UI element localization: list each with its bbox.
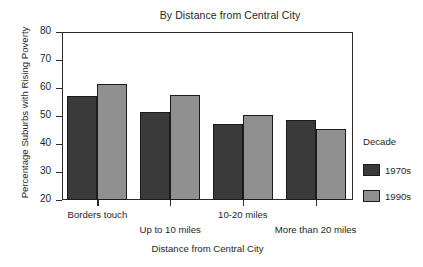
x-axis-tick-mark [316, 200, 317, 206]
bar [170, 95, 200, 200]
x-axis-category-label: Borders touch [37, 209, 157, 220]
legend-label: 1990s [385, 191, 411, 202]
x-axis-tick-mark [97, 200, 98, 206]
x-axis-tick-mark [243, 200, 244, 206]
y-axis-tick-label: 40 [21, 137, 51, 148]
y-axis-tick-mark [56, 172, 62, 173]
y-axis-tick-label: 20 [21, 193, 51, 204]
y-axis-tick-mark [56, 88, 62, 89]
legend-swatch [363, 190, 380, 202]
legend-title: Decade [363, 136, 423, 147]
y-axis-tick: 30 [0, 172, 62, 173]
x-axis-category-label: More than 20 miles [256, 224, 376, 235]
bar [140, 112, 170, 200]
bar [213, 124, 243, 200]
y-axis-tick: 60 [0, 88, 62, 89]
legend-label: 1970s [385, 165, 411, 176]
x-axis-tick-mark [170, 200, 171, 206]
legend-swatch [363, 164, 380, 176]
bar [243, 115, 273, 200]
x-axis-category-label: 10-20 miles [183, 209, 303, 220]
y-axis-tick-mark [56, 60, 62, 61]
y-axis-tick-mark [56, 32, 62, 33]
x-axis-title: Distance from Central City [62, 243, 353, 254]
y-axis-tick-label: 80 [21, 25, 51, 36]
y-axis-tick-mark [56, 200, 62, 201]
legend: Decade 1970s1990s [363, 136, 423, 216]
bar [97, 84, 127, 200]
y-axis-tick: 20 [0, 200, 62, 201]
y-axis-tick: 40 [0, 144, 62, 145]
bar-chart: By Distance from Central City Percentage… [0, 0, 423, 267]
legend-entry: 1990s [363, 190, 423, 202]
legend-entry: 1970s [363, 164, 423, 176]
y-axis-tick-label: 60 [21, 81, 51, 92]
x-axis-category-label: Up to 10 miles [110, 224, 230, 235]
y-axis-tick-label: 70 [21, 53, 51, 64]
bar [286, 120, 316, 200]
bar [316, 129, 346, 200]
chart-title: By Distance from Central City [120, 9, 340, 21]
y-axis-tick-label: 30 [21, 165, 51, 176]
y-axis-tick-label: 50 [21, 109, 51, 120]
y-axis-tick-mark [56, 116, 62, 117]
y-axis-tick: 80 [0, 32, 62, 33]
bar [67, 96, 97, 200]
y-axis-tick: 50 [0, 116, 62, 117]
y-axis-tick-mark [56, 144, 62, 145]
y-axis-tick: 70 [0, 60, 62, 61]
legend-entries: 1970s1990s [363, 164, 423, 202]
